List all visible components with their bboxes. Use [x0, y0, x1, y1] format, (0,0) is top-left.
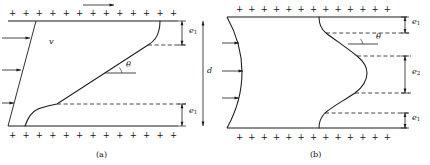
plus-sign: +: [371, 133, 378, 142]
plus-sign: +: [76, 131, 83, 140]
plus-sign: +: [261, 133, 268, 142]
plus-sign: +: [130, 131, 137, 140]
plus-sign: +: [384, 133, 391, 142]
gap-label-d: d: [207, 67, 212, 75]
plus-sign: +: [335, 133, 342, 142]
plus-sign: +: [36, 9, 43, 18]
plus-sign: +: [170, 131, 177, 140]
velocity-profile-curve-a: [25, 21, 160, 126]
plus-sign: +: [116, 131, 123, 140]
plus-sign: +: [298, 133, 305, 142]
plus-sign: +: [310, 5, 317, 14]
layer-label-sub: 2: [417, 70, 421, 76]
plus-sign: +: [236, 5, 243, 14]
plus-sign: +: [63, 131, 70, 140]
plus-sign: +: [49, 9, 56, 18]
dimension-d-a: [202, 21, 205, 126]
velocity-arrow-a-1: [2, 36, 30, 39]
angle-label-b: θ: [376, 33, 381, 41]
left-velocity-curve-b: [227, 17, 242, 128]
plus-sign: +: [49, 131, 56, 140]
velocity-profile-curve-b: [319, 17, 367, 128]
plus-sign: +: [22, 9, 29, 18]
plus-sign: +: [335, 5, 342, 14]
plus-sign: +: [371, 5, 378, 14]
dimension-e1-bottom-b: [401, 113, 409, 128]
plus-sign: +: [89, 9, 96, 18]
plus-sign: +: [322, 133, 329, 142]
plus-sign: +: [384, 5, 391, 14]
plus-sign: +: [298, 5, 305, 14]
layer-label-e1-top-a: e1: [189, 27, 197, 35]
layer-label-e2-middle-b: e2: [412, 68, 420, 76]
plus-sign: +: [347, 5, 354, 14]
velocity-label-a: v: [49, 38, 54, 46]
dimension-e1-bottom-a: [178, 104, 186, 126]
velocity-arrow-a-3: [2, 101, 14, 104]
plate-charges-top-a: + + + + + + + + + + + + +: [9, 9, 177, 18]
plus-sign: +: [9, 9, 16, 18]
flow-direction-arrow-a: [83, 3, 114, 6]
layer-label-sub: 1: [417, 20, 421, 26]
velocity-arrow-b-1: [222, 41, 239, 44]
layer-label-sub: 1: [194, 109, 198, 115]
caption-panel-b: (b): [310, 150, 321, 159]
velocity-arrow-a-2: [2, 68, 21, 71]
plus-sign: +: [248, 133, 255, 142]
plus-sign: +: [36, 131, 43, 140]
plus-sign: +: [103, 9, 110, 18]
plus-sign: +: [285, 5, 292, 14]
plus-sign: +: [248, 5, 255, 14]
layer-label-e1-bottom-a: e1: [189, 107, 197, 115]
plus-sign: +: [359, 5, 366, 14]
plate-charges-bottom-a: + + + + + + + + + + + + +: [9, 131, 177, 140]
layer-label-e1-top-b: e1: [412, 18, 420, 26]
plus-sign: +: [76, 9, 83, 18]
plus-sign: +: [322, 5, 329, 14]
plate-charges-bottom-b: + + + + + + + + + + + + +: [236, 133, 391, 142]
caption-panel-a: (a): [96, 150, 107, 159]
figure-canvas: + + + + + + + + + + + + + + + + + + + + …: [0, 0, 430, 165]
layer-label-sub: 1: [194, 29, 198, 35]
plus-sign: +: [63, 9, 70, 18]
dimension-e2-middle-b: [401, 56, 409, 93]
panel-a-graphics: [0, 0, 215, 165]
plate-charges-top-b: + + + + + + + + + + + + +: [236, 5, 391, 14]
plus-sign: +: [285, 133, 292, 142]
plus-sign: +: [156, 9, 163, 18]
plus-sign: +: [170, 9, 177, 18]
left-velocity-line-a: [8, 21, 36, 126]
plus-sign: +: [116, 9, 123, 18]
plus-sign: +: [347, 133, 354, 142]
plus-sign: +: [143, 9, 150, 18]
layer-label-sub: 1: [417, 116, 421, 122]
plus-sign: +: [130, 9, 137, 18]
velocity-arrow-b-3: [222, 96, 239, 99]
plus-sign: +: [89, 131, 96, 140]
plus-sign: +: [261, 5, 268, 14]
layer-label-e1-bottom-b: e1: [412, 114, 420, 122]
angle-label-a: θ: [126, 61, 131, 69]
plus-sign: +: [359, 133, 366, 142]
plus-sign: +: [310, 133, 317, 142]
plus-sign: +: [236, 133, 243, 142]
plus-sign: +: [273, 5, 280, 14]
velocity-arrow-b-2: [222, 69, 243, 72]
dimension-e1-top-b: [401, 17, 409, 33]
dimension-e1-top-a: [178, 21, 186, 45]
plus-sign: +: [103, 131, 110, 140]
angle-theta-b: [348, 39, 378, 44]
plus-sign: +: [22, 131, 29, 140]
plus-sign: +: [9, 131, 16, 140]
plus-sign: +: [273, 133, 280, 142]
plus-sign: +: [156, 131, 163, 140]
plus-sign: +: [143, 131, 150, 140]
